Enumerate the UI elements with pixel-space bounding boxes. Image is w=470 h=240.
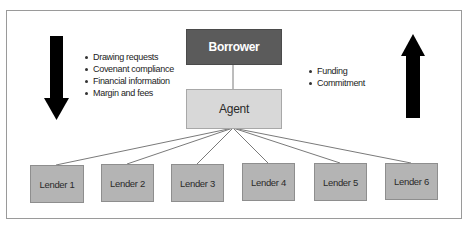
lender-label: Lender 4	[251, 177, 286, 188]
down-arrow-icon	[44, 36, 69, 120]
list-item: Covenant compliance	[84, 63, 174, 75]
list-item: Commitment	[308, 77, 365, 89]
list-item: Funding	[308, 65, 365, 77]
lender-label: Lender 1	[39, 179, 74, 190]
lender-label: Lender 2	[110, 178, 145, 189]
lender-label: Lender 3	[180, 178, 215, 189]
up-arrow-icon	[401, 34, 425, 118]
lender-node-4: Lender 4	[242, 163, 295, 201]
lender-node-1: Lender 1	[30, 165, 84, 203]
list-item: Margin and fees	[84, 87, 174, 99]
agent-label: Agent	[219, 102, 249, 116]
borrower-node: Borrower	[186, 29, 282, 65]
lender-node-6: Lender 6	[385, 163, 438, 200]
lender-label: Lender 5	[323, 177, 358, 188]
lender-node-3: Lender 3	[171, 164, 224, 202]
borrower-label: Borrower	[209, 40, 260, 54]
list-item: Financial information	[84, 75, 174, 87]
lender-node-5: Lender 5	[314, 163, 367, 201]
agent-node: Agent	[186, 89, 282, 129]
borrower-obligations-list: Drawing requests Covenant compliance Fin…	[84, 51, 174, 99]
lender-label: Lender 6	[394, 176, 429, 187]
lender-node-2: Lender 2	[101, 164, 154, 202]
lender-obligations-list: Funding Commitment	[308, 65, 365, 89]
list-item: Drawing requests	[84, 51, 174, 63]
